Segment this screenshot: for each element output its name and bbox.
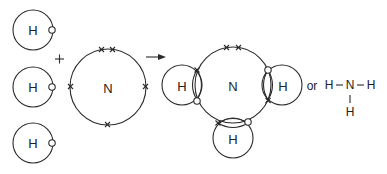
atom-label: H (278, 79, 287, 94)
electron-dot-icon (49, 27, 55, 33)
atom-label: N (103, 81, 112, 96)
reactant-hydrogen-2: H (13, 67, 55, 107)
formula-bottom-h: H (346, 105, 355, 119)
electron-dot-icon (265, 67, 271, 73)
reactant-hydrogen-3: H (13, 123, 55, 163)
atom-label: H (28, 23, 37, 38)
atom-label: H (28, 136, 37, 151)
atom-label: N (228, 79, 237, 94)
plus-sign-icon (55, 55, 64, 64)
formula-center-n: N (346, 78, 355, 92)
electron-dot-icon (194, 98, 200, 104)
electron-dot-icon (245, 119, 251, 125)
electron-dot-icon (49, 84, 55, 90)
electron-dot-icon (49, 140, 55, 146)
structural-formula: H N H H (325, 78, 376, 119)
reactant-hydrogen-1: H (13, 10, 55, 50)
atom-label: H (177, 79, 186, 94)
atom-label: H (228, 132, 237, 147)
reaction-arrow-icon (146, 54, 166, 60)
diagram-canvas: H H H N (0, 0, 387, 174)
or-label: or (307, 79, 318, 93)
reactant-nitrogen: N (68, 47, 148, 127)
formula-right-h: H (367, 78, 376, 92)
ammonia-bonding-diagram: H H H N (0, 0, 387, 174)
atom-label: H (28, 80, 37, 95)
product-ammonia: N H H H (162, 45, 302, 158)
formula-left-h: H (325, 78, 334, 92)
